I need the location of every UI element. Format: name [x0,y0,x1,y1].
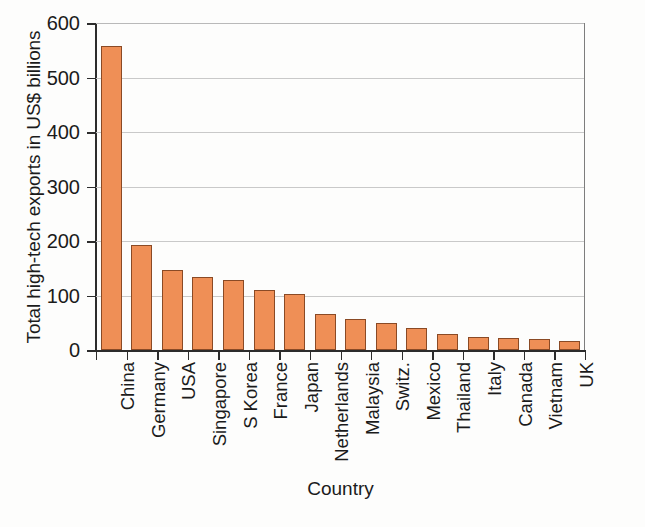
y-axis-tick-label: 300 [20,175,80,198]
x-axis-category-label-wrap: UK [570,362,592,388]
y-axis-tick-label: 100 [20,284,80,307]
x-axis-tick [402,351,403,360]
gridline [96,23,584,24]
bar [498,338,519,350]
x-axis-category-label: Mexico [423,362,445,421]
bar [437,334,458,350]
x-axis-category-label-wrap: S Korea [234,362,256,429]
y-axis-tick [87,296,96,298]
x-axis-category-label: Germany [148,362,170,438]
x-axis-tick [188,351,189,360]
bar [559,341,580,350]
x-axis-tick [249,351,250,360]
x-axis-category-label: Malaysia [362,362,384,435]
y-axis-tick-label: 400 [20,121,80,144]
x-axis-category-label: Canada [515,362,537,427]
x-axis-category-label-wrap: Singapore [203,362,225,446]
x-axis-category-label-wrap: Germany [142,362,164,438]
x-axis-category-label-wrap: Thailand [447,362,469,433]
bar [376,323,397,350]
bar [254,290,275,350]
x-axis-tick [218,351,219,360]
y-axis-tick-label: 500 [20,66,80,89]
gridline [96,132,584,133]
x-axis-category-label: Vietnam [545,362,567,430]
x-axis-title: Country [96,478,585,500]
y-axis-tick [87,350,96,352]
x-axis-category-label: USA [178,362,200,400]
x-axis-tick [279,351,280,360]
x-axis-tick [127,351,128,360]
gridline [96,78,584,79]
x-axis-tick [585,351,586,360]
y-axis-tick-label: 600 [20,12,80,35]
x-axis-category-label: Singapore [209,362,231,446]
bar-chart-figure: Total high-tech exports in US$ billions … [0,0,645,527]
y-axis-tick [87,241,96,243]
x-axis-tick [432,351,433,360]
x-axis-category-label: S Korea [240,362,262,429]
x-axis-tick [493,351,494,360]
x-axis-category-label-wrap: Canada [509,362,531,427]
y-axis-tick-label: 0 [20,339,80,362]
x-axis-tick [524,351,525,360]
plot-area [96,23,585,350]
bar [101,46,122,350]
bar [468,337,489,350]
x-axis-category-label-wrap: Netherlands [325,362,347,462]
x-axis-category-label-wrap: Italy [478,362,500,396]
y-axis-tick [87,78,96,80]
gridline [96,187,584,188]
x-axis-tick [310,351,311,360]
bar [223,280,244,350]
y-axis-tick [87,132,96,134]
bar [315,314,336,350]
bar [192,277,213,350]
y-axis-tick-labels: 0100200300400500600 [16,0,80,527]
bar [529,339,550,350]
x-axis-category-label-wrap: Japan [295,362,317,412]
x-axis-category-label: China [117,362,139,410]
x-axis-category-label: UK [576,362,598,388]
x-axis-category-label: Switz. [392,362,414,411]
y-axis-tick [87,187,96,189]
x-axis-category-label: Thailand [453,362,475,433]
x-axis-tick [341,351,342,360]
y-axis-tick-label: 200 [20,230,80,253]
x-axis-category-label-wrap: France [264,362,286,420]
x-axis-tick [371,351,372,360]
x-axis-category-label: Italy [484,362,506,396]
bar [345,319,366,350]
x-axis-tick [463,351,464,360]
x-axis-category-label-wrap: USA [172,362,194,400]
x-axis-tick [157,351,158,360]
x-axis-tick [96,351,97,360]
bar [162,270,183,350]
gridline [96,241,584,242]
x-axis-category-label: Netherlands [331,362,353,462]
x-axis-category-label-wrap: China [111,362,133,410]
x-axis-category-label-wrap: Vietnam [539,362,561,430]
x-axis-category-label-wrap: Mexico [417,362,439,421]
x-axis-category-label: France [270,362,292,420]
x-axis-category-label-wrap: Switz. [386,362,408,411]
bar [406,328,427,350]
x-axis-category-label: Japan [301,362,323,412]
y-axis-tick [87,23,96,25]
x-axis-tick [554,351,555,360]
x-axis-category-label-wrap: Malaysia [356,362,378,435]
bar [131,245,152,350]
bar [284,294,305,350]
